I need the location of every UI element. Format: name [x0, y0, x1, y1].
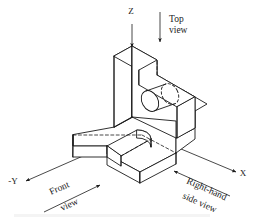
- front-view-label-line2: view: [59, 196, 80, 213]
- z-axis-label: Z: [128, 6, 134, 16]
- minus-y-axis-label: -Y: [8, 176, 18, 186]
- x-axis-label: X: [240, 168, 247, 178]
- right-hand-side-view-annotation: Right-hand side view: [174, 171, 230, 215]
- bracket-solid: [73, 46, 207, 183]
- top-view-label-line2: view: [169, 25, 188, 35]
- top-view-annotation: Top view: [160, 12, 188, 42]
- front-view-annotation: Front view: [44, 179, 100, 213]
- page-scan-artifact: [14, 214, 210, 217]
- front-view-label-line1: Front: [48, 179, 71, 197]
- isometric-drawing-canvas: Z X -Y Top view Front view Right-hand si…: [0, 0, 258, 222]
- top-view-label-line1: Top: [169, 14, 184, 24]
